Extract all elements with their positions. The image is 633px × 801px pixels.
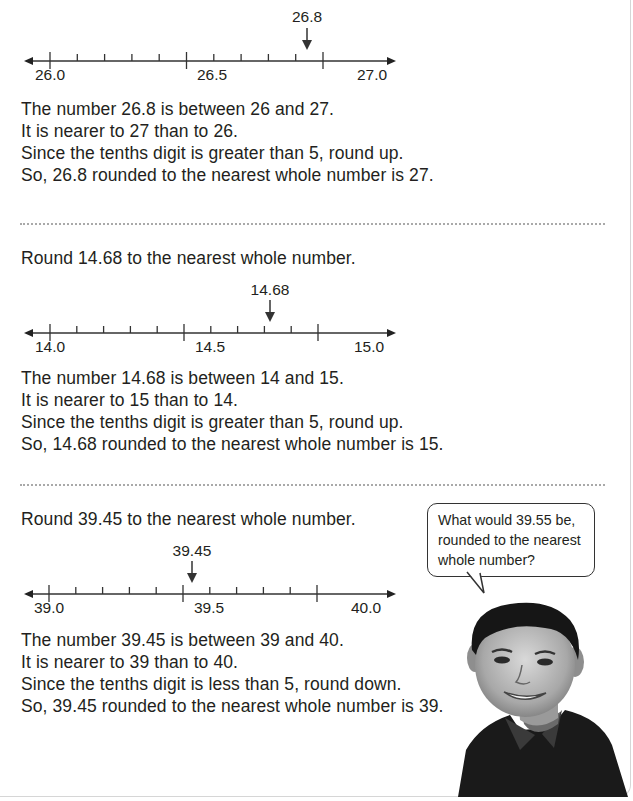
explanation-line: The number 26.8 is between 26 and 27. <box>21 98 434 120</box>
right-arrowhead-icon <box>387 590 396 598</box>
explanation-line: It is nearer to 27 than to 26. <box>21 120 434 142</box>
example-prompt: Round 14.68 to the nearest whole number. <box>21 248 356 269</box>
speech-bubble-line: What would 39.55 be, <box>438 510 588 530</box>
tick-label-mid: 39.5 <box>194 599 224 617</box>
explanation-line: Since the tenths digit is greater than 5… <box>21 142 434 164</box>
tick-label-start: 39.0 <box>34 599 64 617</box>
right-arrowhead-icon <box>387 57 396 65</box>
number-line-graphic <box>0 272 420 342</box>
left-arrowhead-icon <box>24 590 33 598</box>
down-arrow-icon <box>302 40 312 50</box>
dotted-divider <box>20 484 605 486</box>
tick-label-end: 40.0 <box>351 599 381 617</box>
number-line: 26.0 26.5 27.0 <box>0 0 420 70</box>
example-prompt: Round 39.45 to the nearest whole number. <box>21 509 356 530</box>
explanation-line: It is nearer to 15 than to 14. <box>21 389 444 411</box>
tick-label-end: 27.0 <box>357 66 387 84</box>
explanation-line: So, 26.8 rounded to the nearest whole nu… <box>21 164 434 186</box>
left-arrowhead-icon <box>24 329 33 337</box>
explanation-line: The number 39.45 is between 39 and 40. <box>21 629 444 651</box>
right-arrowhead-icon <box>387 329 396 337</box>
explanation: The number 26.8 is between 26 and 27. It… <box>21 98 434 186</box>
down-arrow-icon <box>187 573 197 583</box>
speech-bubble: What would 39.55 be, rounded to the near… <box>427 503 595 577</box>
tick-label-start: 14.0 <box>35 338 65 356</box>
number-line-graphic <box>0 533 420 603</box>
speech-bubble-line: rounded to the nearest <box>438 530 588 550</box>
speech-bubble-tail <box>466 570 496 596</box>
boy-photo <box>450 600 630 797</box>
number-line: 14.0 14.5 15.0 <box>0 272 420 342</box>
explanation-line: Since the tenths digit is greater than 5… <box>21 411 444 433</box>
explanation-line: So, 39.45 rounded to the nearest whole n… <box>21 695 444 717</box>
speech-bubble-line: whole number? <box>438 550 588 570</box>
number-line-graphic <box>0 0 420 70</box>
left-arrowhead-icon <box>24 57 33 65</box>
tick-label-start: 26.0 <box>35 66 65 84</box>
explanation: The number 39.45 is between 39 and 40. I… <box>21 629 444 717</box>
explanation-line: Since the tenths digit is less than 5, r… <box>21 673 444 695</box>
tick-label-end: 15.0 <box>354 338 384 356</box>
down-arrow-icon <box>265 312 275 322</box>
tick-label-mid: 26.5 <box>197 66 227 84</box>
explanation-line: The number 14.68 is between 14 and 15. <box>21 367 444 389</box>
explanation-line: So, 14.68 rounded to the nearest whole n… <box>21 433 444 455</box>
number-line: 39.0 39.5 40.0 <box>0 533 420 603</box>
dotted-divider <box>20 223 605 225</box>
explanation: The number 14.68 is between 14 and 15. I… <box>21 367 444 455</box>
tick-label-mid: 14.5 <box>195 338 225 356</box>
explanation-line: It is nearer to 39 than to 40. <box>21 651 444 673</box>
